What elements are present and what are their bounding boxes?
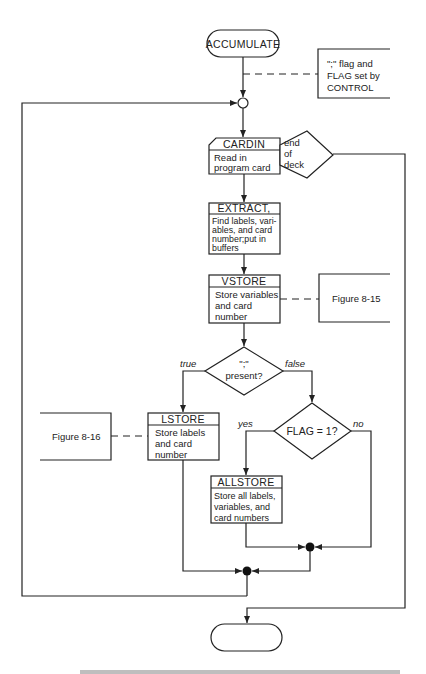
process-lstore: LSTORE Store labels and card number (148, 413, 219, 461)
flowchart-canvas: ACCUMULATE ";" flag and FLAG set by CONT… (0, 0, 426, 674)
connector-true-to-lstore (183, 371, 205, 412)
semicolon-decision-text: ";" (239, 358, 248, 369)
annotation-line: FLAG set by (327, 70, 380, 81)
figure-8-16-label: Figure 8-16 (52, 431, 101, 442)
connector-false-to-flag (283, 371, 312, 402)
vstore-text: and card (215, 300, 252, 311)
lstore-text: Store labels (155, 427, 205, 438)
annotation-line: ";" flag and (327, 58, 373, 69)
end-of-deck-text: end (284, 137, 300, 148)
allstore-text: variables, and (214, 502, 270, 512)
extract-title: EXTRACT, (217, 202, 270, 214)
decision-flag-equals-1: FLAG = 1? (274, 403, 351, 459)
branch-label-yes: yes (237, 418, 253, 429)
process-cardin: CARDIN Read in program card (209, 138, 280, 175)
cardin-text: program card (214, 162, 271, 173)
vstore-text: number (215, 311, 247, 322)
annotation-figure-8-15: Figure 8-15 (319, 274, 390, 322)
annotation-control-note: ";" flag and FLAG set by CONTROL (318, 49, 390, 98)
annotation-line: CONTROL (327, 82, 373, 93)
allstore-text: card numbers (214, 513, 270, 523)
lstore-text: number (155, 449, 187, 460)
start-terminator: ACCUMULATE (206, 30, 281, 57)
decision-semicolon-present: ";" present? (205, 347, 283, 395)
branch-label-false: false (285, 358, 305, 369)
figure-8-15-label: Figure 8-15 (332, 293, 381, 304)
connector-join-to-lower-join (252, 551, 310, 571)
vstore-text: Store variables (215, 289, 279, 300)
branch-label-true: true (180, 358, 196, 369)
process-vstore: VSTORE Store variables and card number (209, 275, 280, 323)
end-of-deck-text: of (284, 148, 292, 159)
annotation-figure-8-16: Figure 8-16 (40, 413, 111, 460)
branch-label-no: no (353, 418, 364, 429)
semicolon-decision-text: present? (226, 370, 263, 381)
join-dot-main (243, 567, 252, 576)
caption-partial (80, 670, 400, 674)
cardin-title: CARDIN (223, 138, 265, 150)
process-extract: EXTRACT, Find labels, vari- ables, and c… (209, 202, 280, 254)
lstore-text: and card (155, 438, 192, 449)
decision-end-of-deck: end of deck (280, 131, 333, 178)
allstore-title: ALLSTORE (217, 476, 274, 488)
connector-allstore-to-join (246, 523, 305, 547)
connector-yes-to-allstore (246, 431, 274, 475)
flag-decision-text: FLAG = 1? (286, 425, 337, 437)
vstore-title: VSTORE (222, 275, 267, 287)
end-of-deck-text: deck (284, 159, 304, 170)
join-dot-flag (306, 543, 315, 552)
process-allstore: ALLSTORE Store all labels, variables, an… (211, 476, 282, 523)
junction-open-circle (238, 98, 248, 108)
lstore-title: LSTORE (161, 413, 205, 425)
allstore-text: Store all labels, (214, 491, 276, 501)
extract-text: buffers (212, 243, 239, 253)
end-terminator (211, 624, 282, 651)
start-terminator-label: ACCUMULATE (206, 38, 281, 50)
